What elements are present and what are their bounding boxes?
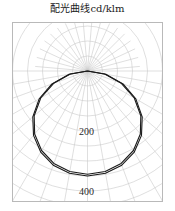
polar-plot: 200 400 <box>0 0 175 211</box>
photometric-chart: 配光曲线cd/klm 200 400 <box>0 0 175 211</box>
radial-label-200: 200 <box>79 126 94 137</box>
radial-label-400: 400 <box>79 186 94 197</box>
